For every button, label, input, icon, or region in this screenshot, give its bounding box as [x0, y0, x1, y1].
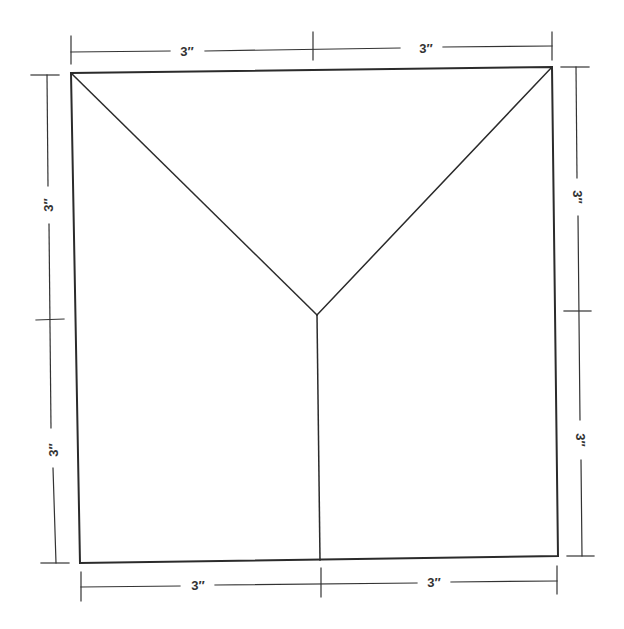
- dimension-label: 3″: [41, 198, 56, 211]
- dimension-label: 3″: [46, 443, 61, 456]
- dimension-left: 3″ 3″: [31, 75, 69, 563]
- diagonal-left: [71, 73, 317, 315]
- dimension-top: 3″ 3″: [71, 32, 552, 64]
- diagonal-right: [317, 67, 552, 315]
- dimension-label: 3″: [180, 44, 193, 59]
- dimension-label: 3″: [419, 41, 432, 56]
- pattern-diagram: 3″ 3″ 3″ 3″ 3″ 3″ 3″ 3″: [0, 0, 624, 629]
- dimension-right: 3″ 3″: [561, 67, 594, 556]
- dimension-label: 3″: [427, 575, 440, 590]
- dimension-bottom: 3″ 3″: [81, 566, 557, 601]
- center-stem: [317, 315, 320, 560]
- dimension-label: 3″: [573, 433, 588, 446]
- dimension-label: 3″: [191, 578, 204, 593]
- dimension-label: 3″: [570, 190, 585, 203]
- square-outline: [71, 67, 558, 563]
